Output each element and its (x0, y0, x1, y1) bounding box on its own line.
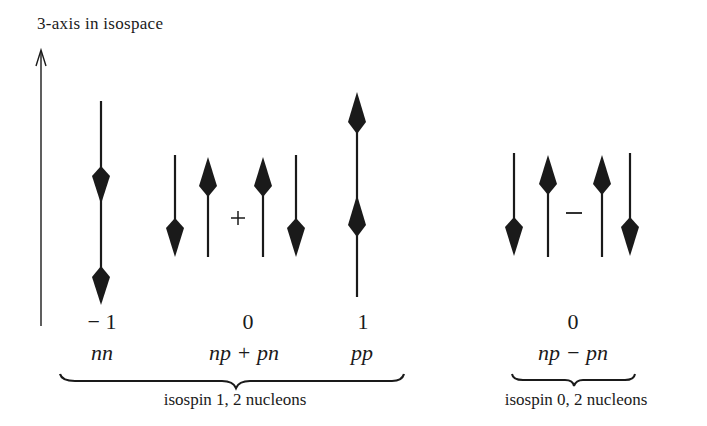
nn-arrows-icon (92, 101, 110, 305)
spin-up-icon (539, 155, 557, 195)
pp-arrows-icon (348, 92, 366, 297)
spin-up-icon (593, 155, 611, 195)
triplet-brace-icon (60, 374, 404, 388)
t3-value-nn: − 1 (88, 309, 117, 335)
spin-down-icon (287, 218, 305, 257)
spin-up-icon (254, 157, 272, 197)
spin-down-icon (92, 166, 110, 204)
t3-value-pp: 1 (358, 309, 369, 335)
spin-up-icon (199, 157, 217, 197)
isospace-axis (36, 50, 46, 326)
spin-down-icon (621, 217, 639, 256)
spin-down-icon (166, 218, 184, 257)
group-label-triplet: isospin 1, 2 nucleons (164, 390, 307, 410)
spin-up-icon (348, 195, 366, 237)
state-label-np-plus-pn: np + pn (209, 340, 279, 366)
group-label-singlet: isospin 0, 2 nucleons (505, 390, 648, 410)
axis-label: 3-axis in isospace (37, 14, 163, 34)
state-label-pp: pp (351, 340, 373, 366)
state-label-nn: nn (91, 340, 113, 366)
t3-value-np-minus-pn: 0 (568, 309, 579, 335)
spin-down-icon (92, 266, 110, 305)
state-label-np-minus-pn: np − pn (538, 340, 608, 366)
np-plus-pn-arrows-icon (166, 155, 305, 257)
spin-down-icon (505, 217, 523, 256)
t3-value-np-plus-pn: 0 (243, 309, 254, 335)
plus-operator-icon (231, 211, 245, 225)
singlet-brace-icon (512, 374, 635, 386)
spin-up-icon (348, 92, 366, 134)
np-minus-pn-arrows-icon (505, 153, 639, 257)
